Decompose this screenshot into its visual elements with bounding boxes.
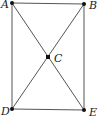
- label-b: B: [88, 0, 97, 12]
- label-c: C: [54, 52, 63, 65]
- edge-e-d: [12, 109, 84, 110]
- point-d: [10, 107, 14, 111]
- point-c: [46, 55, 50, 59]
- point-a: [10, 1, 14, 5]
- geometry-diagram: A B C D E: [0, 0, 99, 120]
- label-e: E: [88, 106, 97, 119]
- point-e: [82, 108, 86, 112]
- edge-a-b: [12, 3, 84, 4]
- point-b: [82, 2, 86, 6]
- label-d: D: [0, 105, 10, 118]
- labels: A B C D E: [0, 0, 97, 119]
- label-a: A: [0, 0, 9, 11]
